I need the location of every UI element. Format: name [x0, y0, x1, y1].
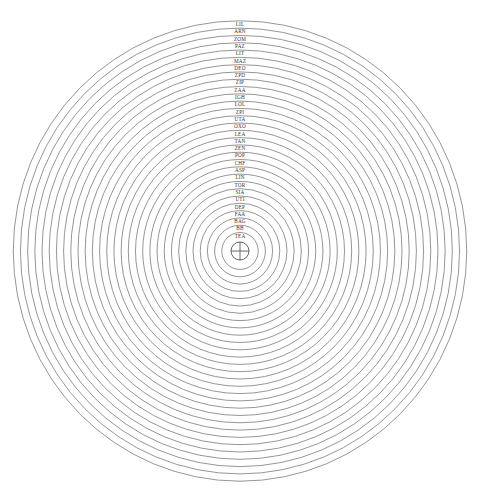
ring-label: ARN	[234, 28, 246, 34]
ring-labels-group: LILARNZOMPAZLITMAZDEOZPDZIPZAAIGHLOLZPIU…	[234, 21, 246, 239]
concentric-ring-diagram: LILARNZOMPAZLITMAZDEOZPDZIPZAAIGHLOLZPIU…	[0, 0, 477, 496]
ring-label: DEO	[234, 65, 245, 71]
ring-label: DEP	[235, 204, 245, 210]
ring-label: TEA	[235, 233, 246, 239]
ring-label: LIT	[236, 50, 245, 56]
ring-label: TOR	[235, 182, 246, 188]
ring-label: CHF	[235, 160, 246, 166]
ring-label: MAZ	[234, 58, 246, 64]
ring-label: ZEN	[235, 145, 246, 151]
ring-label: SIA	[236, 189, 245, 195]
ring-label: BB	[236, 225, 244, 231]
ring-label: PAZ	[235, 43, 245, 49]
ring-label: ZAA	[234, 87, 245, 93]
ring-label: BAG	[234, 218, 246, 224]
ring-label: FAA	[235, 211, 246, 217]
ring-label: LIN	[235, 174, 244, 180]
ring-label: POP	[235, 152, 245, 158]
ring-label: ZOM	[234, 36, 246, 42]
ring-label: IGH	[235, 94, 245, 100]
ring-label: LOL	[235, 101, 246, 107]
ring-label: LIL	[236, 21, 245, 27]
ring-label: ZIP	[236, 79, 244, 85]
ring-label: ASP	[235, 167, 245, 173]
ring-label: LEA	[235, 131, 246, 137]
ring-label: UTI	[235, 196, 244, 202]
ring-label: TAN	[235, 138, 246, 144]
ring-label: ZPD	[235, 72, 245, 78]
ring-label: ZPI	[236, 109, 244, 115]
ring-label: UTA	[235, 116, 246, 122]
ring-label: OXO	[234, 123, 246, 129]
center-crosshair-icon	[231, 242, 249, 260]
